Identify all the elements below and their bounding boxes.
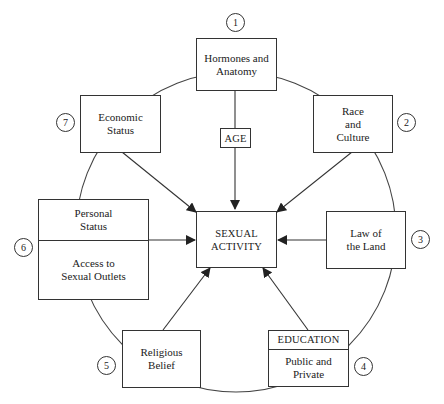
education-detail: Public and Private: [269, 350, 348, 386]
arrow-education-to-center: [263, 268, 308, 330]
factor-economic-status: Economic Status: [80, 95, 161, 153]
factor-hormones-anatomy: Hormones and Anatomy: [196, 38, 277, 91]
factor-label: Status: [80, 220, 107, 233]
access-outlets-section: Access to Sexual Outlets: [39, 241, 148, 299]
factor-label: Belief: [148, 359, 175, 372]
factor-religious-belief: Religious Belief: [122, 330, 201, 388]
factor-label: Anatomy: [216, 65, 257, 78]
factor-label: Public and: [285, 355, 332, 368]
factor-number-2: 2: [397, 113, 416, 132]
arrow-race-to-center: [277, 152, 352, 212]
factor-header: EDUCATION: [278, 333, 340, 346]
center-sexual-activity: SEXUAL ACTIVITY: [196, 211, 277, 268]
center-label: SEXUAL: [215, 227, 258, 240]
factor-number-text: 3: [418, 234, 423, 245]
factor-label: Economic: [98, 111, 143, 124]
factor-education: EDUCATION Public and Private: [268, 330, 349, 387]
factor-number-3: 3: [411, 230, 430, 249]
age-label: AGE: [224, 132, 246, 145]
factor-number-7: 7: [56, 113, 75, 132]
factor-law-of-land: Law of the Land: [326, 211, 406, 269]
factor-label: Private: [293, 368, 324, 381]
factor-number-text: 2: [404, 117, 409, 128]
personal-status-section: Personal Status: [39, 200, 148, 241]
education-header: EDUCATION: [269, 331, 348, 350]
factor-label: Access to: [72, 257, 114, 270]
factor-number-text: 7: [63, 117, 68, 128]
factor-number-5: 5: [97, 356, 116, 375]
factor-number-6: 6: [14, 238, 33, 257]
factor-personal-status: Personal Status Access to Sexual Outlets: [38, 199, 149, 300]
factor-label: Personal: [75, 207, 113, 220]
factor-label: Race: [342, 105, 364, 118]
arrow-religious-to-center: [163, 268, 210, 330]
center-label: ACTIVITY: [211, 240, 262, 253]
factor-label: Culture: [337, 131, 370, 144]
factor-label: Sexual Outlets: [61, 270, 125, 283]
factor-label: Status: [107, 124, 134, 137]
factor-number-4: 4: [354, 357, 373, 376]
factor-number-text: 4: [361, 361, 366, 372]
factor-number-1: 1: [226, 13, 245, 32]
factor-race-culture: Race and Culture: [313, 95, 393, 153]
factor-label: Religious: [140, 346, 182, 359]
factor-label: Hormones and: [204, 52, 268, 65]
factor-number-text: 1: [233, 17, 238, 28]
factor-number-text: 5: [104, 360, 109, 371]
factor-label: the Land: [347, 240, 386, 253]
factor-label: Law of: [350, 227, 381, 240]
age-box: AGE: [220, 128, 251, 148]
factor-number-text: 6: [21, 242, 26, 253]
factor-label: and: [345, 118, 361, 131]
